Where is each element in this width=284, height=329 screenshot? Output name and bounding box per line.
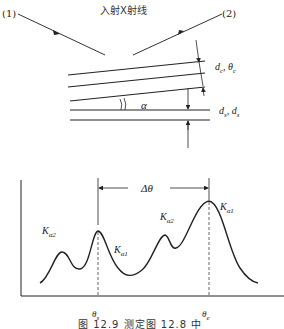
beam-1-label: (1) <box>2 9 16 19</box>
beam-2-label: (2) <box>222 9 236 19</box>
plot-axes <box>21 180 284 296</box>
upper-layer-label: dc, θc <box>215 62 236 75</box>
incident-beam-1 <box>18 14 105 55</box>
peak-label-ka2-right: Kα2 <box>160 212 174 225</box>
tilted-layers <box>68 61 205 101</box>
incident-xray-title: 入射X射线 <box>100 6 147 16</box>
lower-layer-label: ds, ds <box>219 106 239 119</box>
diagram-canvas <box>0 0 284 329</box>
alpha-label: α <box>141 100 147 111</box>
peak-label-ka1-left: Kα1 <box>114 245 128 258</box>
angle-arc <box>120 98 126 110</box>
substrate-layers <box>70 110 210 120</box>
theta-e-label: θe <box>202 310 210 322</box>
figure-caption: 图 12.9 测定图 12.8 中 <box>78 320 202 329</box>
delta-theta-label: Δθ <box>141 183 153 194</box>
peak-label-ka2-left: Kα2 <box>42 226 56 239</box>
incident-beam-2 <box>133 14 222 55</box>
peak-label-ka1-right: Kα1 <box>220 202 234 215</box>
delta-theta-arrow <box>98 178 209 225</box>
